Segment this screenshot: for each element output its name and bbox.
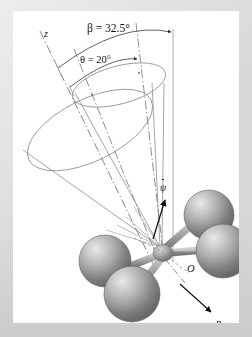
origin-label: O bbox=[187, 264, 195, 275]
space-cone-left-side bbox=[23, 150, 160, 247]
sphere-front-bottom bbox=[104, 266, 160, 322]
theta-angle-label: θ = 20° bbox=[80, 55, 111, 66]
diagram-svg bbox=[13, 11, 239, 323]
rotor-hub bbox=[153, 245, 173, 262]
z-axis-line bbox=[40, 31, 153, 264]
spin-axis-dashdot bbox=[165, 259, 185, 283]
psi-overdot-icon bbox=[162, 179, 164, 181]
figure-canvas: β = 32.5° θ = 20° z ψ O p bbox=[13, 11, 239, 323]
spin-axis-arrow bbox=[180, 284, 211, 312]
space-cone-axis-line bbox=[74, 49, 157, 257]
space-cone bbox=[15, 72, 164, 247]
precession-rate-label: ψ bbox=[160, 183, 166, 193]
z-axis-label: z bbox=[44, 29, 48, 39]
beta-arc bbox=[58, 30, 171, 68]
body-cone-right-side bbox=[162, 83, 164, 246]
space-cone-axis-endpoint-dot bbox=[91, 94, 93, 96]
beta-arc-start-tick bbox=[57, 66, 62, 77]
psi-symbol: ψ bbox=[160, 182, 166, 193]
spin-axis-endpoint-dot bbox=[138, 72, 140, 74]
beta-angle-label: β = 32.5° bbox=[87, 23, 130, 35]
figure-frame: β = 32.5° θ = 20° z ψ O p bbox=[0, 0, 252, 337]
spin-axis-label: p bbox=[216, 318, 221, 323]
